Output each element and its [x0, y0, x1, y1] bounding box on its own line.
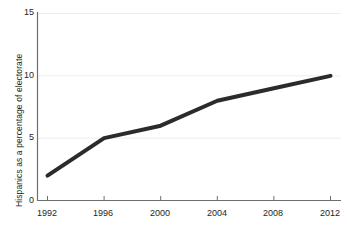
plot-area: [0, 0, 347, 230]
line-chart-figure: Hispanics as a percentage of electorate …: [0, 0, 347, 230]
data-series-line: [48, 76, 331, 176]
x-axis-ticks: [48, 196, 331, 201]
gridlines: [38, 14, 341, 139]
